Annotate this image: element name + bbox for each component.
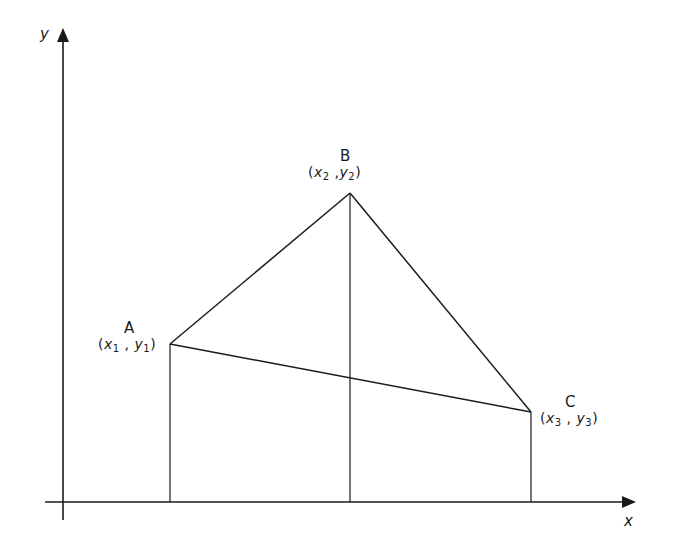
x-axis-arrow-icon bbox=[622, 496, 636, 508]
edge-AB bbox=[170, 193, 350, 344]
point-C-name: C bbox=[565, 395, 575, 410]
point-B-coords: (x2 ,y2) bbox=[308, 165, 361, 182]
point-A-coords: (x1 , y1) bbox=[98, 337, 156, 354]
y-axis-arrow-icon bbox=[57, 28, 69, 42]
x-axis-label: x bbox=[624, 514, 633, 529]
point-B-name: B bbox=[340, 149, 350, 164]
edge-BC bbox=[350, 193, 531, 412]
point-A-name: A bbox=[124, 321, 134, 336]
point-C-coords: (x3 , y3) bbox=[540, 411, 598, 428]
diagram-canvas bbox=[0, 0, 674, 560]
y-axis-label: y bbox=[40, 27, 49, 42]
